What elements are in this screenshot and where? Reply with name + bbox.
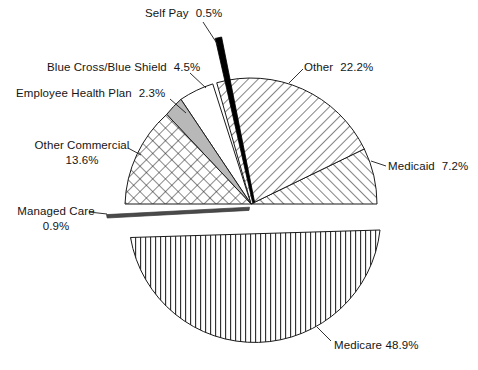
- slice-label-other-commercial: Other Commercial 13.6%: [28, 138, 136, 167]
- slice-label-blue-cross-blue-shield: Blue Cross/Blue Shield4.5%: [47, 60, 200, 74]
- leader-line-blue-cross-blue-shield: [190, 73, 206, 88]
- slice-label-medicaid-name: Medicaid: [388, 160, 435, 172]
- slice-label-managed-care: Managed Care 0.9%: [8, 204, 104, 233]
- slice-label-employee-health-plan-percent: 2.3%: [139, 87, 166, 99]
- slice-label-employee-health-plan-name: Employee Health Plan: [16, 87, 132, 99]
- slice-label-other-percent: 22.2%: [340, 61, 373, 73]
- leader-line-other: [289, 69, 303, 83]
- slice-label-managed-care-percent: 0.9%: [8, 219, 104, 234]
- leader-line-medicare: [317, 327, 331, 341]
- slice-label-medicaid-percent: 7.2%: [442, 160, 469, 172]
- slice-label-blue-cross-blue-shield-percent: 4.5%: [174, 61, 201, 73]
- slice-label-medicare: Medicare 48.9%: [334, 338, 419, 352]
- pie-slice-managed-care[interactable]: [107, 207, 250, 218]
- slice-label-blue-cross-blue-shield-name: Blue Cross/Blue Shield: [47, 61, 167, 73]
- slice-label-employee-health-plan: Employee Health Plan2.3%: [16, 86, 165, 100]
- slice-label-medicaid: Medicaid7.2%: [388, 159, 468, 173]
- slice-label-other-commercial-name: Other Commercial: [28, 138, 136, 153]
- leader-line-medicaid: [371, 161, 386, 166]
- pie-chart: Self Pay0.5% Blue Cross/Blue Shield4.5% …: [0, 0, 478, 370]
- slice-label-other: Other22.2%: [304, 60, 373, 74]
- slice-label-self-pay: Self Pay0.5%: [145, 6, 222, 20]
- pie-slice-medicare[interactable]: [131, 230, 381, 342]
- pie-chart-canvas: [0, 0, 478, 370]
- slice-label-other-commercial-percent: 13.6%: [28, 153, 136, 168]
- slice-label-self-pay-name: Self Pay: [145, 7, 189, 19]
- slice-label-self-pay-percent: 0.5%: [196, 7, 223, 19]
- slice-label-managed-care-name: Managed Care: [8, 204, 104, 219]
- slice-label-other-name: Other: [304, 61, 333, 73]
- leader-line-self-pay: [203, 22, 218, 45]
